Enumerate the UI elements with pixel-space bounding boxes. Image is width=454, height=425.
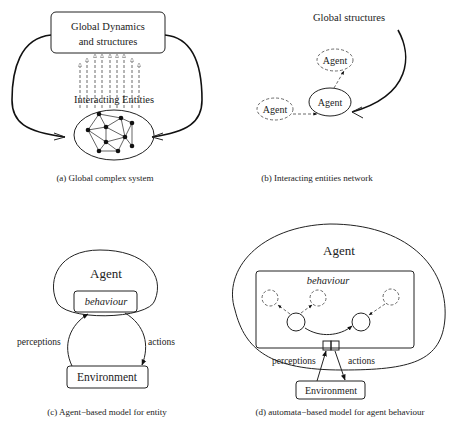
- behaviour-label: behaviour: [85, 296, 128, 307]
- panel-c-agent-based-model: Agent behaviour Environment perceptions …: [17, 250, 175, 417]
- caption-c: (c) Agent−based model for entity: [47, 407, 167, 417]
- state-solid-2: [352, 313, 370, 331]
- perceptions-arrow-d: [317, 351, 326, 381]
- feedback-arrow-left: [12, 35, 65, 137]
- input-port: [323, 341, 331, 350]
- transition-from-dashed-3: [369, 304, 385, 315]
- entities-ellipse: [74, 110, 154, 160]
- behaviour-label-d: behaviour: [307, 275, 350, 286]
- agent-left-label: Agent: [263, 104, 288, 115]
- state-dashed-2: [310, 290, 326, 306]
- dashed-edge-to-top: [334, 71, 344, 88]
- agent-top-label: Agent: [323, 55, 348, 66]
- output-port: [331, 341, 339, 350]
- panel-a-global-complex-system: Global Dynamics and structures Interacti…: [12, 12, 202, 183]
- diagram-canvas: Global Dynamics and structures Interacti…: [0, 0, 454, 425]
- global-feedback-arrow: [352, 30, 406, 112]
- global-structures-label: Global structures: [313, 12, 385, 23]
- caption-b: (b) Interacting entities network: [261, 173, 373, 183]
- interacting-entities-label: Interacting Entities: [74, 94, 154, 105]
- agent-center-label: Agent: [318, 97, 343, 108]
- perceptions-label: perceptions: [17, 337, 61, 347]
- feedback-arrow-right: [152, 35, 202, 137]
- transition-solid: [305, 326, 352, 335]
- caption-d: (d) automata−based model for agent behav…: [256, 407, 425, 417]
- environment-label-d: Environment: [305, 385, 357, 396]
- perceptions-label-d: perceptions: [272, 356, 316, 366]
- state-dashed-1: [262, 290, 278, 306]
- panel-d-automata-model: Agent behaviour Environment perceptions …: [232, 224, 445, 417]
- agent-label: Agent: [90, 266, 122, 281]
- actions-arrow-d: [335, 351, 345, 380]
- actions-arrow: [125, 313, 146, 365]
- actions-label: actions: [148, 337, 175, 347]
- global-dynamics-label: Global Dynamics: [71, 21, 145, 32]
- entity-network: [88, 114, 132, 151]
- caption-a: (a) Global complex system: [56, 173, 153, 183]
- perceptions-arrow: [68, 314, 88, 366]
- environment-label: Environment: [77, 371, 138, 383]
- agent-label-d: Agent: [323, 243, 355, 258]
- state-solid-1: [287, 313, 305, 331]
- state-dashed-3: [383, 289, 399, 305]
- transition-to-dashed-1: [278, 305, 290, 314]
- and-structures-label: and structures: [79, 36, 138, 47]
- transition-to-dashed-2: [301, 305, 312, 313]
- actions-label-d: actions: [348, 356, 375, 366]
- panel-b-interacting-entities-network: Global structures Agent Agent Agent (b) …: [257, 12, 406, 183]
